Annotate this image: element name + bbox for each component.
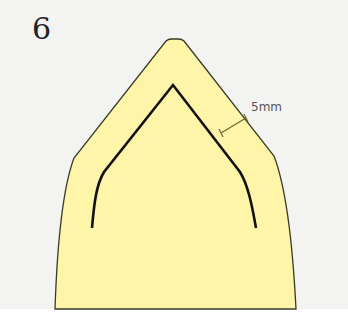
offset-label: 5mm: [251, 100, 282, 114]
pattern-diagram: [0, 0, 348, 321]
pattern-piece-outline: [55, 39, 296, 309]
